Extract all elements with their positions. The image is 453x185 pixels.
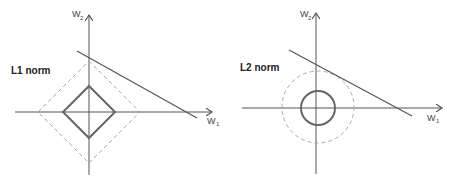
l2-panel: L2 norm W 2 W 1 (240, 9, 442, 174)
w1-label-sub: 1 (216, 121, 220, 127)
w1-label: W (427, 113, 436, 123)
l1-title: L1 norm (11, 65, 51, 76)
regularization-diagram: L1 norm W 2 W 1 L2 norm W 2 W 1 (0, 0, 453, 185)
w2-label-sub: 2 (308, 15, 312, 21)
loss-contour-line (289, 50, 412, 116)
w2-label-sub: 2 (80, 15, 84, 21)
l1-panel: L1 norm W 2 W 1 (11, 9, 220, 175)
loss-contour-line (77, 51, 197, 118)
w1-label: W (207, 116, 216, 126)
dashed-l2-constraint (282, 71, 354, 143)
l2-title: L2 norm (240, 62, 280, 73)
w1-label-sub: 1 (436, 118, 440, 124)
